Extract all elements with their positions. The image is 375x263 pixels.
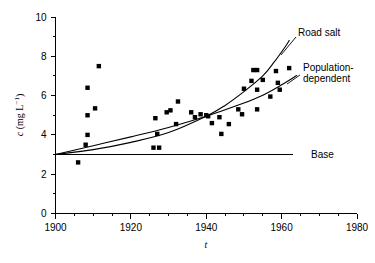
data-point-marker [287,66,291,70]
data-point-marker [76,160,80,164]
data-point-marker [268,94,272,98]
population-dependent-leader-line [287,75,300,84]
data-point-marker [276,81,280,85]
population-dependent-label-line1: Population- [303,62,354,73]
data-point-marker [217,115,221,119]
base-label: Base [311,149,334,160]
data-point-marker [236,107,240,111]
data-point-marker [164,110,168,114]
population-dependent-label-line2: dependent [303,73,350,84]
data-point-marker [278,88,282,92]
data-point-marker [242,87,246,91]
data-point-marker [189,110,193,114]
road-salt-label: Road salt [298,27,340,38]
x-tick-label-1980: 1980 [346,222,369,233]
data-point-marker [219,132,223,136]
data-point-marker [85,113,89,117]
data-point-marker [176,99,180,103]
data-point-marker [227,122,231,126]
chart-container: 190019201940196019800246810 Road salt Po… [0,0,375,263]
x-tick-label-1940: 1940 [195,222,218,233]
tick-labels-group: 190019201940196019800246810 [35,12,368,233]
data-point-marker [83,143,87,147]
y-axis-title: c (mg L−1) [13,94,26,136]
data-point-marker [155,132,159,136]
y-axis-title-units: (mg L [14,105,26,132]
x-tick-label-1920: 1920 [120,222,143,233]
data-point-marker [85,133,89,137]
y-tick-label-4: 4 [41,129,47,140]
series-curve-population-dependent [56,76,297,155]
data-point-marker [151,145,155,149]
series-group [56,41,297,155]
data-point-marker [157,145,161,149]
scatter-plot-svg: 190019201940196019800246810 Road salt Po… [0,0,375,263]
y-tick-label-10: 10 [35,12,47,23]
y-tick-label-0: 0 [41,208,47,219]
y-tick-label-6: 6 [41,90,47,101]
y-tick-label-2: 2 [41,169,47,180]
y-axis-title-paren: ) [14,94,26,97]
road-salt-leader-line [281,37,296,55]
data-point-marker [174,122,178,126]
data-point-marker [255,107,259,111]
data-point-marker [193,115,197,119]
data-point-marker [210,121,214,125]
data-point-marker [97,64,101,68]
data-point-marker [85,86,89,90]
annotation-leaders [281,37,300,84]
data-point-marker [249,79,253,83]
x-axis-title: t [205,239,208,250]
data-point-marker [255,68,259,72]
x-tick-label-1900: 1900 [44,222,67,233]
data-point-marker [240,112,244,116]
svg-text:c (mg L−1): c (mg L−1) [13,94,26,136]
data-point-marker [251,68,255,72]
data-point-marker [274,69,278,73]
data-point-marker [168,108,172,112]
series-curve-road-salt [56,41,290,155]
data-point-marker [261,78,265,82]
y-tick-label-8: 8 [41,51,47,62]
data-point-marker [93,106,97,110]
data-point-marker [206,114,210,118]
data-point-marker [153,116,157,120]
x-tick-label-1960: 1960 [271,222,294,233]
data-point-marker [255,88,259,92]
data-point-marker [198,112,202,116]
